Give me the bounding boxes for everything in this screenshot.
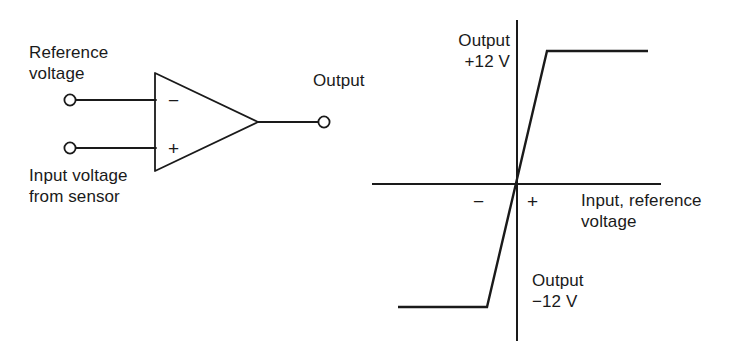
- output-negative-rail-label: Output −12 V: [532, 270, 584, 312]
- terminal-circles: [64, 94, 329, 153]
- output-positive-rail-label: Output +12 V: [400, 30, 510, 72]
- output-terminal: [318, 116, 329, 127]
- noninverting-input-sign: +: [168, 139, 179, 158]
- x-axis-negative-sign: −: [473, 192, 484, 211]
- output-label: Output: [313, 70, 365, 91]
- opamp-schematic: [76, 73, 319, 171]
- comparator-figure: Reference voltage Input voltage from sen…: [0, 0, 749, 351]
- x-axis-label: Input, reference voltage: [581, 190, 702, 232]
- input-voltage-label: Input voltage from sensor: [29, 165, 128, 207]
- input-voltage-terminal: [64, 142, 75, 153]
- reference-voltage-terminal: [64, 94, 75, 105]
- comparator-transfer-curve: [398, 51, 648, 307]
- inverting-input-sign: −: [168, 91, 179, 110]
- x-axis-positive-sign: +: [527, 192, 538, 211]
- reference-voltage-label: Reference voltage: [29, 42, 108, 84]
